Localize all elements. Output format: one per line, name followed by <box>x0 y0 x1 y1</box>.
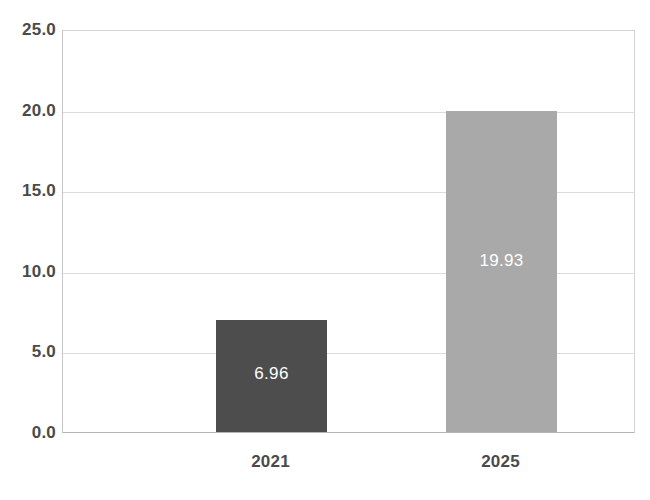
y-tick-label-15: 15.0 <box>0 181 56 201</box>
y-tick-label-25: 25.0 <box>0 20 56 40</box>
x-tick-label-2021: 2021 <box>251 452 290 472</box>
y-tick-label-10: 10.0 <box>0 262 56 282</box>
x-axis-tick-labels: 2021 2025 <box>62 452 635 482</box>
bar-2021[interactable]: 6.96 <box>216 320 327 432</box>
bar-value-label-2025: 19.93 <box>446 251 557 271</box>
y-axis-tick-labels: 0.0 5.0 10.0 15.0 20.0 25.0 <box>0 30 56 433</box>
y-tick-label-0: 0.0 <box>0 423 56 443</box>
bar-value-label-2021: 6.96 <box>216 364 327 384</box>
plot-area: 6.96 19.93 <box>62 30 635 433</box>
y-tick-label-20: 20.0 <box>0 101 56 121</box>
bar-chart: 0.0 5.0 10.0 15.0 20.0 25.0 6.96 19.93 2… <box>0 0 650 500</box>
y-tick-label-5: 5.0 <box>0 342 56 362</box>
x-tick-label-2025: 2025 <box>481 452 520 472</box>
bar-2025[interactable]: 19.93 <box>446 111 557 432</box>
